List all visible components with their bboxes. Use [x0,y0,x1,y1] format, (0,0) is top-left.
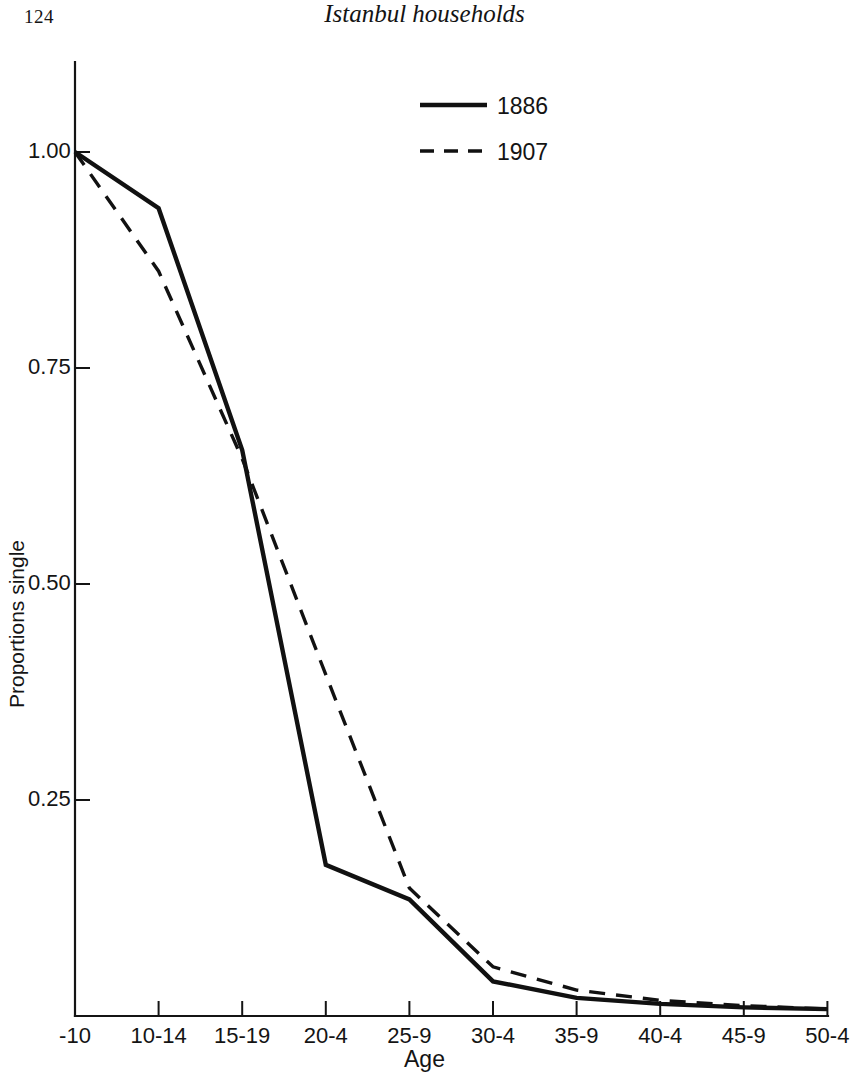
y-tick-label-0.50: 0.50 [28,570,71,596]
series-line-1886 [75,152,827,1009]
y-tick-label-0.75: 0.75 [28,354,71,380]
y-tick-label-0.25: 0.25 [28,786,71,812]
x-axis-title: Age [0,1046,849,1073]
y-axis-ticks [75,152,90,800]
legend-label-1886: 1886 [497,93,548,120]
series-line-1907 [75,152,827,1009]
running-head: 124 Istanbul households [0,0,849,46]
y-tick-label-1.00: 1.00 [28,138,71,164]
chart-figure: Proportions single 1886 1907 1.00 0.75 0… [0,46,849,1076]
x-axis-ticks [75,1001,827,1016]
y-axis-title: Proportions single [5,540,28,708]
legend-label-1907: 1907 [497,139,548,166]
line-chart-canvas: Proportions single [0,46,849,1076]
running-title: Istanbul households [0,0,849,28]
